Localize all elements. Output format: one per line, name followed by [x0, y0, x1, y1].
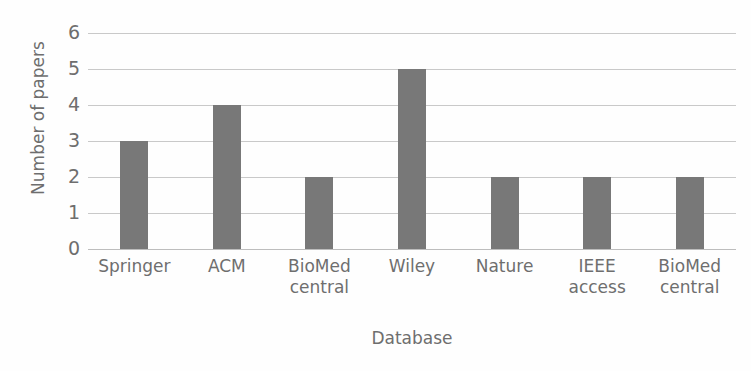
- x-tick-label: BioMedcentral: [643, 256, 736, 299]
- x-tick-label: Nature: [458, 256, 551, 277]
- bar-slot: [181, 33, 274, 249]
- bar[interactable]: [398, 69, 426, 249]
- x-tick-label-line: Springer: [88, 256, 181, 277]
- x-tick-label: IEEEaccess: [551, 256, 644, 299]
- bar-slot: [88, 33, 181, 249]
- bar-slot: [273, 33, 366, 249]
- x-tick-label-line: Wiley: [366, 256, 459, 277]
- x-tick-label-line: BioMed: [273, 256, 366, 277]
- x-tick-label: Springer: [88, 256, 181, 277]
- x-tick-label-line: ACM: [181, 256, 274, 277]
- gridline-0: [88, 249, 736, 250]
- x-tick-label-line: access: [551, 277, 644, 298]
- bar-chart-figure: 6543210 Number of papers SpringerACMBioM…: [0, 0, 751, 371]
- x-tick-label: ACM: [181, 256, 274, 277]
- y-axis-title: Number of papers: [28, 18, 48, 218]
- bar[interactable]: [213, 105, 241, 249]
- bar-slot: [643, 33, 736, 249]
- bar-slot: [458, 33, 551, 249]
- bar[interactable]: [583, 177, 611, 249]
- bar-slot: [551, 33, 644, 249]
- bar[interactable]: [305, 177, 333, 249]
- x-tick-label: Wiley: [366, 256, 459, 277]
- y-tick-label-0: 0: [0, 239, 80, 258]
- bar[interactable]: [676, 177, 704, 249]
- plot-area: [88, 33, 736, 249]
- x-axis-tick-labels: SpringerACMBioMedcentralWileyNatureIEEEa…: [88, 256, 736, 312]
- bar-series: [88, 33, 736, 249]
- x-tick-label: BioMedcentral: [273, 256, 366, 299]
- bar[interactable]: [491, 177, 519, 249]
- bar-slot: [366, 33, 459, 249]
- x-tick-label-line: central: [643, 277, 736, 298]
- x-tick-label-line: central: [273, 277, 366, 298]
- x-axis-title: Database: [88, 328, 736, 348]
- x-tick-label-line: BioMed: [643, 256, 736, 277]
- x-tick-label-line: IEEE: [551, 256, 644, 277]
- bar[interactable]: [120, 141, 148, 249]
- x-tick-label-line: Nature: [458, 256, 551, 277]
